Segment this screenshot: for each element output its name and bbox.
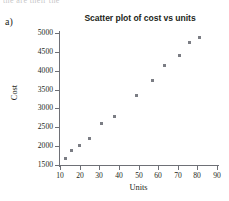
x-tick-label: 20 [70,171,90,180]
data-point [100,122,103,125]
y-tick-label-text: 3500 [13,85,53,94]
y-tick [55,108,59,109]
x-tick-label: 60 [148,171,168,180]
y-axis-line [59,31,60,167]
y-tick [55,90,59,91]
data-point [70,149,73,152]
x-tick [217,166,218,170]
x-tick [99,166,100,170]
x-tick [158,166,159,170]
x-tick-label: 40 [109,171,129,180]
data-point [188,41,191,44]
y-tick-label-text: 4000 [13,66,53,75]
x-tick-label: 50 [129,171,149,180]
y-tick-label-text: 4500 [13,47,53,56]
data-point [151,79,154,82]
x-tick [178,166,179,170]
y-tick-label: 1500 [11,160,53,169]
x-tick-label: 90 [207,171,227,180]
data-point [78,144,81,147]
scatter-chart: Scatter plot of cost vs units 1500200025… [0,0,229,201]
y-tick [55,33,59,34]
x-tick [139,166,140,170]
chart-title: Scatter plot of cost vs units [55,13,225,23]
x-tick-label: 70 [168,171,188,180]
y-tick-label-text: 2000 [13,141,53,150]
data-point [64,157,67,160]
x-tick [119,166,120,170]
data-point [135,94,138,97]
data-point [163,64,166,67]
y-tick-label: 2000 [11,141,53,150]
y-tick-label: 2500 [11,122,53,131]
x-axis-label: Units [60,183,217,192]
data-point [198,36,201,39]
x-tick-label: 80 [187,171,207,180]
x-tick [60,166,61,170]
y-tick-label-text: 2500 [13,122,53,131]
y-tick [55,127,59,128]
y-tick-label-text: 5000 [13,28,53,37]
data-point [88,137,91,140]
x-tick-label: 10 [50,171,70,180]
data-point [113,115,116,118]
y-tick [55,52,59,53]
y-axis-label: Cost [10,73,19,113]
data-point [178,54,181,57]
x-tick-label: 30 [89,171,109,180]
y-tick [55,165,59,166]
x-tick [80,166,81,170]
y-tick-label-text: 3000 [13,103,53,112]
y-tick [55,146,59,147]
y-tick-label: 4500 [11,47,53,56]
y-tick-label-text: 1500 [13,160,53,169]
y-tick-label: 5000 [11,28,53,37]
y-tick [55,71,59,72]
x-tick [197,166,198,170]
